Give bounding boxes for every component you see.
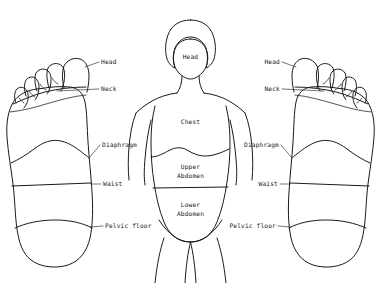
left-foot-label-waist: Waist	[103, 180, 123, 187]
left-foot-chest-zone-line	[10, 95, 86, 112]
left-foot-neck-leader	[57, 89, 99, 91]
body-legs-outline	[155, 238, 226, 283]
body-label-upper-abdomen-line2: Abdomen	[177, 172, 204, 179]
body-shoulder-line	[136, 93, 245, 113]
right-foot-label-neck: Neck	[264, 85, 280, 92]
left-foot-toe-3	[35, 69, 51, 94]
right-foot-sole	[278, 58, 374, 267]
body-left-arm-outline	[128, 113, 151, 185]
reflexology-diagram: Head Neck Diaphragm Waist Pelvic floor H…	[0, 0, 381, 283]
right-foot-diaphragm-leader	[281, 145, 292, 158]
right-foot-toe-3	[330, 69, 346, 94]
right-foot-pelvic-floor-line	[289, 220, 366, 228]
body-label-upper-abdomen-line1: Upper	[181, 163, 201, 171]
left-foot-outline	[7, 87, 93, 267]
right-foot-label-diaphragm: Diaphragm	[244, 141, 279, 149]
right-foot-waist-line	[290, 183, 369, 186]
body-diaphragm-line	[151, 148, 229, 157]
body-waist-line	[153, 187, 228, 188]
left-foot-diaphragm-line	[11, 140, 89, 163]
left-foot-label-pelvic-floor: Pelvic floor	[105, 222, 152, 229]
left-foot-sole: Head Neck Diaphragm Waist Pelvic floor	[7, 58, 152, 267]
left-foot-diaphragm-leader	[89, 145, 100, 158]
body-label-lower-abdomen-line1: Lower	[181, 201, 201, 208]
left-foot-label-diaphragm: Diaphragm	[102, 141, 137, 149]
right-foot-label-waist: Waist	[259, 180, 279, 187]
right-foot-outline	[288, 87, 374, 267]
right-foot-label-pelvic-floor: Pelvic floor	[229, 222, 276, 229]
body-right-arm-outline	[230, 113, 253, 185]
right-foot-label-head: Head	[264, 58, 280, 65]
right-foot-neck-leader	[282, 89, 324, 91]
right-foot-labels: Head Neck Diaphragm Waist Pelvic floor	[229, 58, 280, 229]
human-torso-figure: Head Chest Upper Abdomen Lower Abdomen	[128, 20, 253, 283]
body-label-head: Head	[183, 53, 199, 60]
body-label-chest: Chest	[181, 118, 201, 125]
body-label-lower-abdomen-line2: Abdomen	[177, 210, 204, 217]
left-foot-label-head: Head	[101, 58, 117, 65]
right-foot-chest-zone-line	[295, 95, 371, 112]
right-foot-diaphragm-line	[292, 140, 370, 163]
left-foot-label-neck: Neck	[101, 85, 117, 92]
left-foot-pelvic-floor-line	[15, 220, 92, 228]
left-foot-waist-line	[12, 183, 91, 186]
